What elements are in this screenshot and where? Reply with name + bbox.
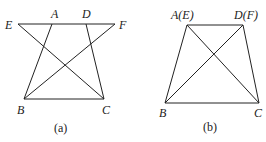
label-B: B	[159, 106, 167, 120]
label-E: E	[4, 18, 13, 32]
label-C: C	[254, 106, 263, 120]
line-DB	[165, 25, 243, 103]
label-DF: D(F)	[233, 8, 258, 22]
line-AC	[187, 25, 259, 103]
caption-a: (a)	[54, 121, 67, 135]
label-A: A	[50, 7, 59, 21]
label-C: C	[102, 103, 111, 117]
label-AE: A(E)	[170, 8, 194, 22]
diagram-canvas: E A D F B C (a) A(E) D(F) B C (b)	[0, 0, 266, 142]
label-F: F	[118, 18, 127, 32]
label-B: B	[17, 103, 25, 117]
line-EC	[18, 24, 104, 99]
figure-a: E A D F B C (a)	[4, 7, 127, 135]
line-DC	[243, 25, 259, 103]
label-D: D	[81, 7, 91, 21]
figure-b: A(E) D(F) B C (b)	[159, 8, 263, 134]
caption-b: (b)	[203, 120, 217, 134]
